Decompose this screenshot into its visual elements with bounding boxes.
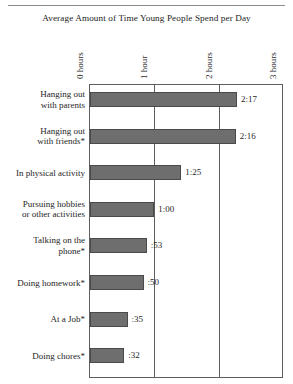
bar-value-label: 1:00 bbox=[158, 202, 174, 217]
category-label: At a Job* bbox=[2, 314, 85, 325]
bar-value-label: :50 bbox=[148, 275, 160, 290]
category-label-line: In physical activity bbox=[2, 168, 85, 179]
category-label: Doing chores* bbox=[2, 351, 85, 362]
category-label-line: or other activities bbox=[2, 209, 85, 220]
category-label-line: Hanging out bbox=[2, 126, 85, 137]
bar-row: Doing homework*:50 bbox=[0, 274, 293, 310]
category-label: In physical activity bbox=[2, 168, 85, 179]
bar bbox=[90, 202, 154, 217]
bar-rows-container: Hanging outwith parents2:17Hanging outwi… bbox=[0, 0, 293, 384]
category-label-line: phone* bbox=[2, 246, 85, 257]
bar bbox=[90, 238, 147, 253]
category-label-line: Hanging out bbox=[2, 89, 85, 100]
bar bbox=[90, 275, 144, 290]
bar-value-label: :32 bbox=[128, 348, 140, 363]
bar-row: Hanging outwith friends*2:16 bbox=[0, 128, 293, 164]
bar-value-label: 1:25 bbox=[185, 165, 201, 180]
category-label-line: Pursuing hobbies bbox=[2, 199, 85, 210]
bar-value-label: :35 bbox=[132, 312, 144, 327]
chart-figure: Average Amount of Time Young People Spen… bbox=[0, 0, 293, 384]
category-label-line: Doing chores* bbox=[2, 351, 85, 362]
category-label: Hanging outwith friends* bbox=[2, 126, 85, 147]
category-label: Hanging outwith parents bbox=[2, 89, 85, 110]
category-label-line: with parents bbox=[2, 100, 85, 111]
bar-row: In physical activity1:25 bbox=[0, 164, 293, 200]
bar-row: Pursuing hobbiesor other activities1:00 bbox=[0, 201, 293, 237]
bar bbox=[90, 348, 124, 363]
bar bbox=[90, 165, 181, 180]
bar-row: At a Job*:35 bbox=[0, 311, 293, 347]
bar-row: Doing chores*:32 bbox=[0, 347, 293, 383]
bar-value-label: 2:16 bbox=[240, 129, 256, 144]
bar-row: Talking on thephone*:53 bbox=[0, 237, 293, 273]
bar-value-label: :53 bbox=[151, 238, 163, 253]
category-label: Doing homework* bbox=[2, 278, 85, 289]
bar-row: Hanging outwith parents2:17 bbox=[0, 91, 293, 127]
category-label: Talking on thephone* bbox=[2, 235, 85, 256]
bar bbox=[90, 92, 237, 107]
bar bbox=[90, 129, 236, 144]
category-label: Pursuing hobbiesor other activities bbox=[2, 199, 85, 220]
category-label-line: At a Job* bbox=[2, 314, 85, 325]
bar bbox=[90, 312, 128, 327]
category-label-line: with friends* bbox=[2, 136, 85, 147]
category-label-line: Doing homework* bbox=[2, 278, 85, 289]
category-label-line: Talking on the bbox=[2, 235, 85, 246]
bar-value-label: 2:17 bbox=[241, 92, 257, 107]
